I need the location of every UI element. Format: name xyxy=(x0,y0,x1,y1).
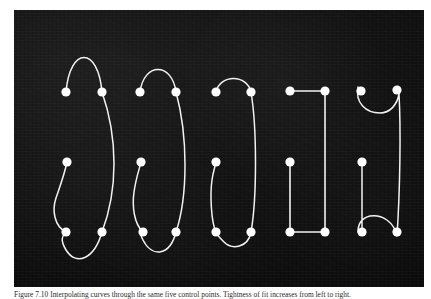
shape-1-loose-spline xyxy=(54,58,114,259)
shape-5-tight-inverted-spline xyxy=(356,85,401,236)
control-point xyxy=(285,86,294,95)
control-point xyxy=(357,157,366,166)
control-point xyxy=(136,157,145,166)
control-point xyxy=(246,227,255,236)
control-point xyxy=(211,157,220,166)
control-point xyxy=(138,227,147,236)
figure-image-plate xyxy=(14,10,424,287)
control-point xyxy=(171,87,180,96)
control-point xyxy=(320,86,329,95)
control-point xyxy=(392,227,401,236)
shape-2-oval-spline xyxy=(133,70,185,252)
control-point xyxy=(320,227,329,236)
control-point xyxy=(211,87,220,96)
shape-4-curve xyxy=(290,91,325,232)
control-point xyxy=(61,227,70,236)
control-point xyxy=(285,227,294,236)
figure-caption-text: Figure 7.10 Interpolating curves through… xyxy=(14,290,426,299)
control-point xyxy=(62,157,71,166)
curves-diagram xyxy=(14,10,424,287)
control-point xyxy=(356,86,365,95)
control-point xyxy=(135,87,144,96)
shape-4-straight-polyline xyxy=(285,86,329,236)
figure-root: Figure 7.10 Interpolating curves through… xyxy=(0,0,431,299)
control-point xyxy=(357,227,366,236)
control-point xyxy=(171,227,180,236)
control-point xyxy=(392,85,401,94)
control-point xyxy=(285,157,294,166)
figure-caption: Figure 7.10 Interpolating curves through… xyxy=(14,290,426,299)
control-point xyxy=(211,227,220,236)
control-point xyxy=(61,87,70,96)
control-point xyxy=(97,87,106,96)
control-point xyxy=(97,227,106,236)
control-point xyxy=(246,87,255,96)
shape-3-rounded-rectangle-spline xyxy=(211,79,256,247)
